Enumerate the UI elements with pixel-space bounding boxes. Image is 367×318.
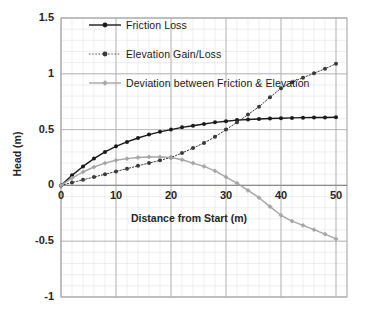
y-tick-label: -1: [10, 290, 54, 302]
legend-label: Elevation Gain/Loss: [126, 48, 221, 60]
x-tick-label: 40: [261, 189, 301, 201]
legend-item-1[interactable]: Elevation Gain/Loss: [88, 47, 221, 61]
legend-marker-icon: [88, 48, 122, 60]
x-tick-label: 30: [206, 189, 246, 201]
legend-label: Deviation between Friction & Elevation: [126, 77, 310, 89]
x-tick-label: 20: [151, 189, 191, 201]
x-tick-label: 0: [41, 189, 81, 201]
legend-item-2[interactable]: Deviation between Friction & Elevation: [88, 76, 310, 90]
x-tick-label: 10: [96, 189, 136, 201]
y-axis-title: Head (m): [11, 124, 23, 184]
legend-marker-icon: [88, 77, 122, 89]
legend-label: Friction Loss: [126, 19, 187, 31]
y-tick-label: 1.5: [10, 11, 54, 23]
x-tick-label: 50: [316, 189, 356, 201]
series-0: [59, 115, 338, 187]
y-tick-label: 1: [10, 67, 54, 79]
legend-marker-icon: [88, 19, 122, 31]
chart-container: 1.510.50-0.5-1 01020304050 Head (m) Dist…: [0, 0, 367, 318]
y-tick-label: -0.5: [10, 234, 54, 246]
legend-item-0[interactable]: Friction Loss: [88, 18, 187, 32]
x-axis-title: Distance from Start (m): [131, 212, 247, 224]
